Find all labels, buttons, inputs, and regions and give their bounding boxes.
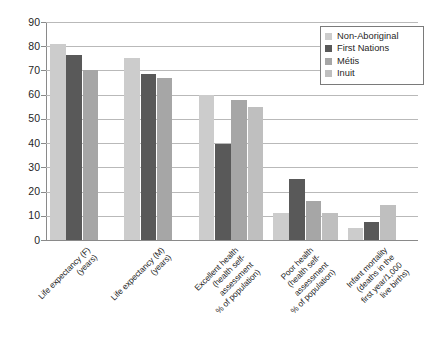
bar bbox=[83, 70, 99, 240]
bar bbox=[289, 179, 305, 240]
bar bbox=[124, 58, 140, 240]
y-tick-label-10: 10 bbox=[14, 210, 40, 221]
legend-item-non-aboriginal[interactable]: Non-Aboriginal bbox=[325, 30, 419, 43]
legend-item-label: Inuit bbox=[337, 69, 355, 78]
bar-group bbox=[120, 22, 194, 240]
bar bbox=[199, 95, 215, 240]
legend-item-label: Non-Aboriginal bbox=[337, 32, 399, 41]
legend-swatch-icon bbox=[325, 58, 332, 65]
y-tick-label-40: 40 bbox=[14, 138, 40, 149]
bar bbox=[66, 55, 82, 240]
legend-item-m-tis[interactable]: Métis bbox=[325, 55, 419, 68]
y-tick-label-50: 50 bbox=[14, 113, 40, 124]
bar-group bbox=[46, 22, 120, 240]
bar-group bbox=[195, 22, 269, 240]
legend-swatch-icon bbox=[325, 70, 332, 77]
y-tick-label-30: 30 bbox=[14, 162, 40, 173]
bar bbox=[348, 228, 364, 240]
y-tick-label-80: 80 bbox=[14, 41, 40, 52]
bar bbox=[231, 100, 247, 240]
y-tick-label-70: 70 bbox=[14, 65, 40, 76]
legend-item-label: Métis bbox=[337, 57, 359, 66]
legend-item-inuit[interactable]: Inuit bbox=[325, 68, 419, 81]
bar bbox=[215, 144, 231, 240]
legend: Non-AboriginalFirst NationsMétisInuit bbox=[320, 26, 424, 85]
y-tick-label-90: 90 bbox=[14, 17, 40, 28]
bar bbox=[364, 222, 380, 240]
y-tick-label-60: 60 bbox=[14, 89, 40, 100]
bar-chart: 0102030405060708090 Life expectancy (F) … bbox=[0, 0, 440, 347]
bar bbox=[141, 74, 157, 240]
bar bbox=[322, 213, 338, 240]
bar bbox=[50, 44, 66, 240]
bar bbox=[248, 107, 264, 240]
legend-swatch-icon bbox=[325, 33, 332, 40]
gridline-0 bbox=[46, 240, 418, 241]
legend-swatch-icon bbox=[325, 45, 332, 52]
y-tick-label-0: 0 bbox=[14, 235, 40, 246]
bar bbox=[157, 78, 173, 240]
legend-item-first-nations[interactable]: First Nations bbox=[325, 43, 419, 56]
y-tick-label-20: 20 bbox=[14, 186, 40, 197]
legend-item-label: First Nations bbox=[337, 44, 389, 53]
bar bbox=[306, 201, 322, 240]
bar bbox=[380, 205, 396, 240]
bar bbox=[273, 213, 289, 240]
